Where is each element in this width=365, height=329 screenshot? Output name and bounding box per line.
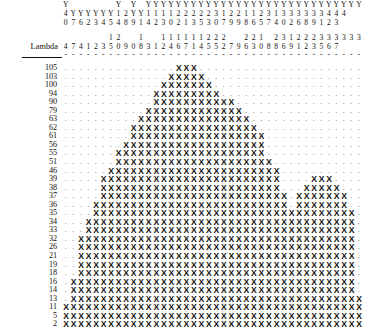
header-cell: Y xyxy=(175,0,183,9)
header-cell: Y xyxy=(70,9,78,18)
header-cell: Y xyxy=(303,0,311,9)
rule-cell: - xyxy=(160,51,168,58)
matrix-cell-filled: X xyxy=(182,320,190,329)
matrix-body: 105...............XXX...................… xyxy=(0,64,365,329)
lambda-top-rule xyxy=(22,57,62,58)
header-cell: 9 xyxy=(310,18,318,27)
row-cells: .....XXXXXXXXXXXXXXXXXXXXXXXXX.XXXXXXX.. xyxy=(62,192,363,201)
header-cell xyxy=(340,18,348,27)
header-cell: Y xyxy=(220,0,228,9)
header-cell: Y xyxy=(257,0,265,9)
row-cells: ..........XXXXXXXXXXXXXXX............... xyxy=(62,115,363,124)
rule-cell: - xyxy=(190,51,198,58)
header-cell: Y xyxy=(100,9,108,18)
header-cell: 2 xyxy=(242,33,250,42)
header-cell: Y xyxy=(227,0,235,9)
matrix-cell-filled: X xyxy=(220,320,228,329)
header-cell: 2 xyxy=(257,9,265,18)
header-gutter xyxy=(0,9,62,18)
header-cell: 2 xyxy=(212,33,220,42)
header-cell: 3 xyxy=(212,9,220,18)
header-cell: 6 xyxy=(295,18,303,27)
header-cell: 3 xyxy=(310,9,318,18)
matrix-cell-filled: X xyxy=(235,320,243,329)
header-cell: 9 xyxy=(235,18,243,27)
header-cell: Y xyxy=(272,0,280,9)
header-cell xyxy=(107,0,115,9)
header-cell: 1 xyxy=(137,33,145,42)
header-cell: Y xyxy=(152,0,160,9)
rule-cell: - xyxy=(333,51,341,58)
header-cells-1: 4YYYYYY12YY111122222312211231333333444 xyxy=(62,9,363,18)
matrix-cell-filled: X xyxy=(92,320,100,329)
header-cell: 1 xyxy=(115,9,123,18)
header-cell: 1 xyxy=(107,33,115,42)
row-cells: XXXXXXXXXXXXXXXXXXXXXXXXXXXXXXXXXXXXXXXX xyxy=(62,320,363,329)
header-cell: 1 xyxy=(145,9,153,18)
rule-cell: - xyxy=(348,51,356,58)
header-cell: 2 xyxy=(250,33,258,42)
header-cells-2: 0762345489142302135307998657402689123 xyxy=(62,18,363,27)
header-cell: 2 xyxy=(122,9,130,18)
row-cells: .......XXXXXXXXXXXXXXXXXXXX............. xyxy=(62,149,363,158)
header-cell: Y xyxy=(130,9,138,18)
header-cell: 1 xyxy=(257,33,265,42)
matrix-cell-filled: X xyxy=(205,320,213,329)
header-cell: 2 xyxy=(115,33,123,42)
header-cell: 1 xyxy=(175,33,183,42)
matrix-cell-filled: X xyxy=(295,320,303,329)
header-cell: 9 xyxy=(130,18,138,27)
header-cell: 1 xyxy=(167,33,175,42)
rule-cell: - xyxy=(130,51,138,58)
header-cell: 2 xyxy=(197,9,205,18)
row-cells: ...XXXXXXXXXXXXXXXXXXXXXXXXXXXXXXXXXXXX. xyxy=(62,226,363,235)
matrix-cell-filled: X xyxy=(250,320,258,329)
header-cell: 1 xyxy=(197,33,205,42)
header-cell: 4 xyxy=(145,18,153,27)
header-cell xyxy=(77,33,85,42)
header-cell: 7 xyxy=(220,18,228,27)
rule-cell: - xyxy=(107,51,115,58)
header-cell: Y xyxy=(107,9,115,18)
header-cell: 4 xyxy=(100,18,108,27)
matrix-cell-filled: X xyxy=(62,320,70,329)
rule-cell: - xyxy=(318,51,326,58)
header-cell: 2 xyxy=(152,18,160,27)
rule-cell: - xyxy=(182,51,190,58)
header-cell: 1 xyxy=(182,33,190,42)
row-label-header: Lambda xyxy=(0,42,62,51)
column-index-row: Lambda 474123509083124671455279630886912… xyxy=(0,42,365,51)
header-cell: Y xyxy=(167,0,175,9)
rule-cell: - xyxy=(355,51,363,58)
header-cell: 3 xyxy=(325,33,333,42)
rule-cell: - xyxy=(152,51,160,58)
matrix-cell-filled: X xyxy=(85,320,93,329)
header-cell: Y xyxy=(130,0,138,9)
header-cell: Y xyxy=(333,0,341,9)
rule-cell: - xyxy=(77,51,85,58)
header-cell: 3 xyxy=(265,9,273,18)
matrix-cell-filled: X xyxy=(257,320,265,329)
index-cells-0: 121111111222221231222333333 xyxy=(62,33,363,42)
rule-cell: - xyxy=(325,51,333,58)
header-cell: 3 xyxy=(287,9,295,18)
header-cell: Y xyxy=(212,0,220,9)
column-header-row: 0762345489142302135307998657402689123 xyxy=(0,18,365,27)
header-cell: Y xyxy=(160,0,168,9)
header-cell: 3 xyxy=(348,33,356,42)
header-cell: 2 xyxy=(287,18,295,27)
header-cell: 2 xyxy=(303,33,311,42)
header-cell: 3 xyxy=(333,33,341,42)
row-cells: .............XXXXXXX.................... xyxy=(62,81,363,90)
header-cell: 1 xyxy=(272,9,280,18)
header-cell: Y xyxy=(137,9,145,18)
header-cell: 3 xyxy=(280,33,288,42)
rule-cell: - xyxy=(62,51,70,58)
header-cell: 2 xyxy=(272,33,280,42)
header-cell: 1 xyxy=(160,9,168,18)
matrix-cell-filled: X xyxy=(197,320,205,329)
matrix-cell-filled: X xyxy=(318,320,326,329)
header-cell xyxy=(130,33,138,42)
header-cell: 3 xyxy=(303,9,311,18)
